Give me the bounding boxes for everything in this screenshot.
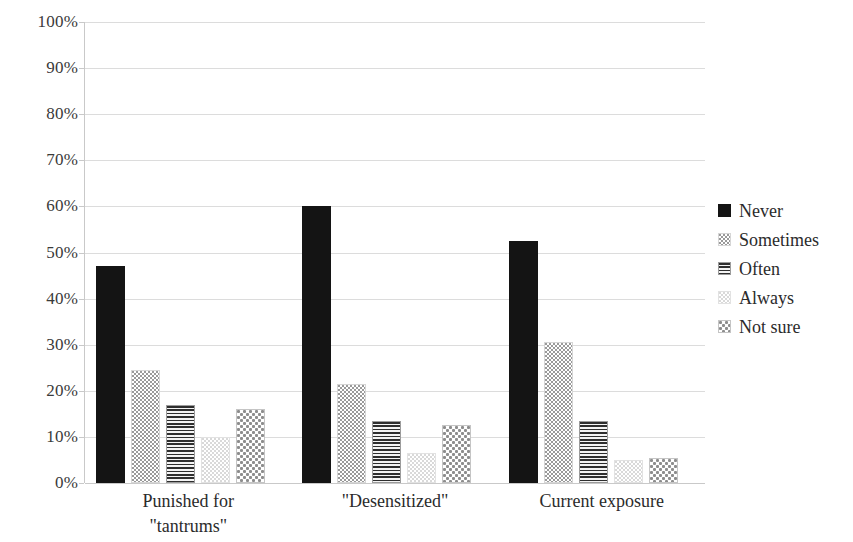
bar-never[interactable] xyxy=(96,266,125,483)
legend-label: Always xyxy=(739,289,794,307)
y-axis-tick-label: 70% xyxy=(0,151,78,168)
y-axis-tick-label: 60% xyxy=(0,197,78,214)
bar-chart: 100%90%80%70%60%50%40%30%20%10%0% Punish… xyxy=(0,0,853,542)
y-axis-tick xyxy=(79,437,84,438)
bar-often[interactable] xyxy=(166,405,195,483)
bar-always[interactable] xyxy=(201,437,230,483)
legend-swatch-icon xyxy=(718,291,731,304)
legend-item-sometimes[interactable]: Sometimes xyxy=(718,225,853,254)
x-axis-label: Punished for "tantrums" xyxy=(85,489,292,539)
legend-swatch-icon xyxy=(718,204,731,217)
legend-label: Sometimes xyxy=(739,231,819,249)
bar-not-sure[interactable] xyxy=(442,425,471,483)
y-axis-tick-label: 80% xyxy=(0,105,78,122)
bar-not-sure[interactable] xyxy=(236,409,265,483)
gridline xyxy=(85,483,705,484)
bar-group xyxy=(498,22,705,483)
legend-swatch-icon xyxy=(718,233,731,246)
bar-always[interactable] xyxy=(407,453,436,483)
bar-never[interactable] xyxy=(302,206,331,483)
bar-not-sure[interactable] xyxy=(649,458,678,483)
bar-often[interactable] xyxy=(372,421,401,483)
legend-label: Never xyxy=(739,202,783,220)
chart-legend: NeverSometimesOftenAlwaysNot sure xyxy=(718,196,853,341)
y-axis-tick xyxy=(79,22,84,23)
y-axis-tick-label: 100% xyxy=(0,13,78,30)
legend-item-not-sure[interactable]: Not sure xyxy=(718,312,853,341)
y-axis-tick-label: 20% xyxy=(0,382,78,399)
y-axis-tick xyxy=(79,206,84,207)
bar-sometimes[interactable] xyxy=(337,384,366,483)
legend-swatch-icon xyxy=(718,320,731,333)
y-axis-tick-label: 10% xyxy=(0,428,78,445)
bar-always[interactable] xyxy=(614,460,643,483)
y-axis-tick xyxy=(79,299,84,300)
bar-sometimes[interactable] xyxy=(544,342,573,483)
x-axis-category-labels: Punished for "tantrums""Desensitized"Cur… xyxy=(85,489,705,542)
legend-swatch-icon xyxy=(718,262,731,275)
y-axis-tick xyxy=(79,391,84,392)
y-axis-tick xyxy=(79,253,84,254)
y-axis-tick xyxy=(79,114,84,115)
legend-label: Often xyxy=(739,260,780,278)
y-axis-tick-label: 30% xyxy=(0,336,78,353)
bar-group xyxy=(85,22,292,483)
y-axis-tick-label: 50% xyxy=(0,244,78,261)
y-axis-tick xyxy=(79,483,84,484)
legend-item-never[interactable]: Never xyxy=(718,196,853,225)
legend-item-always[interactable]: Always xyxy=(718,283,853,312)
y-axis-labels: 100%90%80%70%60%50%40%30%20%10%0% xyxy=(0,0,78,505)
x-axis-label: Current exposure xyxy=(498,489,705,514)
bar-group xyxy=(292,22,499,483)
y-axis-tick xyxy=(79,68,84,69)
y-axis-tick-label: 0% xyxy=(0,474,78,491)
legend-item-often[interactable]: Often xyxy=(718,254,853,283)
y-axis-tick-label: 40% xyxy=(0,290,78,307)
x-axis-label: "Desensitized" xyxy=(292,489,499,514)
legend-label: Not sure xyxy=(739,318,801,336)
y-axis-tick xyxy=(79,345,84,346)
bar-often[interactable] xyxy=(579,421,608,483)
bar-never[interactable] xyxy=(509,241,538,483)
bar-sometimes[interactable] xyxy=(131,370,160,483)
y-axis-tick xyxy=(79,160,84,161)
y-axis-tick-label: 90% xyxy=(0,59,78,76)
plot-area xyxy=(85,22,705,483)
